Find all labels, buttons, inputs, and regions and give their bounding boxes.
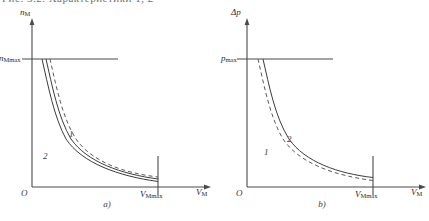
curve-label-1-b: 1	[264, 147, 269, 157]
y-axis-label-b: Δp	[231, 8, 241, 17]
curve-2-solid-upper-a	[46, 59, 158, 179]
cropped-header-text-value: Рис. 3.2. Характеристики 1, 2	[2, 0, 154, 4]
y-axis-label-a: nM	[20, 8, 30, 18]
curve-1-dashed-a	[50, 59, 158, 177]
curve-label-1-a: 1	[69, 129, 74, 139]
plot-a: nM nMmax O VMmax VM 1 2	[0, 9, 214, 205]
origin-label-b: O	[236, 188, 243, 198]
origin-label-a: O	[21, 188, 28, 198]
figure-b: Δp pmax O VMmax VM 1 2 b)	[215, 9, 429, 221]
y-tick-label-a: nMmax	[0, 54, 20, 64]
x-axis-label-a: VM	[196, 188, 207, 198]
curve-label-2-a: 2	[43, 151, 48, 161]
curve-1-dashed-b	[258, 59, 373, 181]
y-axis-arrow-a	[30, 18, 35, 25]
y-tick-label-b: pmax	[221, 54, 237, 64]
plot-b-svg	[215, 9, 429, 205]
x-axis-label-b: VM	[411, 188, 422, 198]
figure-a: nM nMmax O VMmax VM 1 2 a)	[0, 9, 214, 221]
caption-b: b)	[215, 199, 429, 209]
curve-2-solid-b	[263, 59, 373, 178]
caption-a: a)	[0, 199, 214, 209]
plot-b: Δp pmax O VMmax VM 1 2	[215, 9, 429, 205]
y-axis-arrow-b	[245, 18, 250, 25]
cropped-header-text: Рис. 3.2. Характеристики 1, 2	[0, 0, 429, 9]
curve-label-2-b: 2	[287, 134, 292, 144]
figure-page: Рис. 3.2. Характеристики 1, 2	[0, 0, 429, 221]
plot-a-svg	[0, 9, 214, 205]
